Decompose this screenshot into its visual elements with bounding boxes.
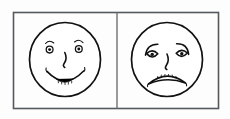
- happy-face-outline: [30, 23, 101, 97]
- faces-illustration: [0, 0, 230, 119]
- happy-left-pupil: [48, 48, 51, 51]
- happy-face-group: [30, 23, 101, 97]
- happy-right-pupil: [77, 48, 80, 51]
- sad-left-pupil: [151, 53, 154, 56]
- sad-face-outline: [132, 23, 203, 97]
- emotion-faces-image: [0, 0, 230, 119]
- sad-face-group: [132, 23, 203, 97]
- sad-right-pupil: [180, 52, 183, 55]
